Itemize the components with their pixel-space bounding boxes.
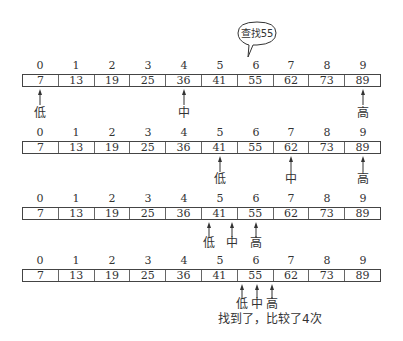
array-cell: 55 bbox=[238, 75, 274, 86]
index-label: 8 bbox=[317, 60, 337, 72]
array-cell: 55 bbox=[238, 208, 274, 219]
index-label: 1 bbox=[66, 127, 86, 139]
index-label: 9 bbox=[353, 127, 373, 139]
index-label: 3 bbox=[138, 127, 158, 139]
array-row: 7 13 19 25 36 41 55 62 73 89 bbox=[22, 74, 381, 87]
array-cell: 19 bbox=[95, 75, 131, 86]
low-label: 低 bbox=[203, 237, 215, 250]
array-cell: 89 bbox=[345, 208, 380, 219]
array-cell: 73 bbox=[309, 270, 345, 281]
index-label: 3 bbox=[138, 193, 158, 205]
mid-label: 中 bbox=[226, 237, 238, 250]
index-label: 2 bbox=[102, 193, 122, 205]
array-cell: 55 bbox=[238, 270, 274, 281]
index-label: 1 bbox=[66, 193, 86, 205]
index-label: 8 bbox=[317, 127, 337, 139]
index-label: 0 bbox=[30, 255, 50, 267]
index-label: 4 bbox=[174, 60, 194, 72]
index-label: 6 bbox=[246, 193, 266, 205]
array-cell: 89 bbox=[345, 270, 380, 281]
index-label: 9 bbox=[353, 60, 373, 72]
array-cell: 62 bbox=[274, 270, 310, 281]
array-cell: 41 bbox=[202, 270, 238, 281]
array-cell: 7 bbox=[23, 270, 59, 281]
index-label: 8 bbox=[317, 193, 337, 205]
index-label: 3 bbox=[138, 255, 158, 267]
binary-search-diagram: 查找55 0 1 2 3 4 5 6 7 8 9 7 13 19 25 36 4… bbox=[0, 0, 403, 341]
array-row: 7 13 19 25 36 41 55 62 73 89 bbox=[22, 269, 381, 282]
index-label: 7 bbox=[281, 193, 301, 205]
index-label: 6 bbox=[246, 60, 266, 72]
index-label: 4 bbox=[174, 255, 194, 267]
index-label: 1 bbox=[66, 255, 86, 267]
index-label: 5 bbox=[210, 255, 230, 267]
array-cell: 62 bbox=[274, 75, 310, 86]
index-label: 2 bbox=[102, 255, 122, 267]
index-label: 2 bbox=[102, 127, 122, 139]
index-label: 5 bbox=[210, 193, 230, 205]
array-cell: 19 bbox=[95, 270, 131, 281]
array-cell: 41 bbox=[202, 142, 238, 153]
index-label: 6 bbox=[246, 255, 266, 267]
high-label: 高 bbox=[266, 298, 278, 311]
array-cell: 55 bbox=[238, 142, 274, 153]
index-label: 5 bbox=[210, 127, 230, 139]
index-label: 1 bbox=[66, 60, 86, 72]
array-cell: 13 bbox=[59, 270, 95, 281]
index-label: 4 bbox=[174, 193, 194, 205]
array-cell: 7 bbox=[23, 142, 59, 153]
array-cell: 13 bbox=[59, 142, 95, 153]
index-label: 4 bbox=[174, 127, 194, 139]
array-cell: 41 bbox=[202, 75, 238, 86]
high-label: 高 bbox=[250, 237, 262, 250]
array-cell: 73 bbox=[309, 142, 345, 153]
array-row: 7 13 19 25 36 41 55 62 73 89 bbox=[22, 207, 381, 220]
high-label: 高 bbox=[357, 107, 369, 120]
index-label: 5 bbox=[210, 60, 230, 72]
array-cell: 7 bbox=[23, 75, 59, 86]
array-cell: 62 bbox=[274, 208, 310, 219]
index-label: 7 bbox=[281, 127, 301, 139]
array-cell: 25 bbox=[130, 142, 166, 153]
array-cell: 89 bbox=[345, 75, 380, 86]
index-label: 9 bbox=[353, 193, 373, 205]
array-cell: 25 bbox=[130, 208, 166, 219]
array-cell: 36 bbox=[166, 270, 202, 281]
index-label: 0 bbox=[30, 127, 50, 139]
array-cell: 62 bbox=[274, 142, 310, 153]
high-label: 高 bbox=[357, 173, 369, 186]
index-label: 8 bbox=[317, 255, 337, 267]
index-label: 0 bbox=[30, 193, 50, 205]
index-label: 2 bbox=[102, 60, 122, 72]
array-cell: 73 bbox=[309, 75, 345, 86]
array-cell: 25 bbox=[130, 75, 166, 86]
low-label: 低 bbox=[214, 173, 226, 186]
array-cell: 36 bbox=[166, 142, 202, 153]
index-label: 7 bbox=[281, 60, 301, 72]
array-cell: 13 bbox=[59, 75, 95, 86]
index-label: 7 bbox=[281, 255, 301, 267]
array-cell: 41 bbox=[202, 208, 238, 219]
result-caption: 找到了，比较了4次 bbox=[218, 313, 322, 326]
low-label: 低 bbox=[34, 107, 46, 120]
array-cell: 89 bbox=[345, 142, 380, 153]
index-label: 9 bbox=[353, 255, 373, 267]
low-label: 低 bbox=[236, 298, 248, 311]
search-target-label: 查找55 bbox=[238, 22, 276, 45]
array-cell: 19 bbox=[95, 142, 131, 153]
index-label: 3 bbox=[138, 60, 158, 72]
mid-label: 中 bbox=[178, 107, 190, 120]
mid-label: 中 bbox=[251, 298, 263, 311]
array-cell: 19 bbox=[95, 208, 131, 219]
mid-label: 中 bbox=[285, 173, 297, 186]
array-cell: 36 bbox=[166, 208, 202, 219]
array-cell: 13 bbox=[59, 208, 95, 219]
array-cell: 7 bbox=[23, 208, 59, 219]
speech-bubble-icon bbox=[0, 0, 403, 341]
index-label: 0 bbox=[30, 60, 50, 72]
array-cell: 73 bbox=[309, 208, 345, 219]
array-cell: 36 bbox=[166, 75, 202, 86]
index-label: 6 bbox=[246, 127, 266, 139]
array-row: 7 13 19 25 36 41 55 62 73 89 bbox=[22, 141, 381, 154]
array-cell: 25 bbox=[130, 270, 166, 281]
